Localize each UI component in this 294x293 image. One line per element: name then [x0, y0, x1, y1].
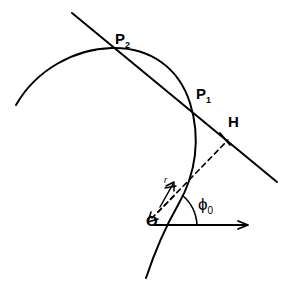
radius-label-r: r: [164, 176, 167, 185]
diagram-vector-layer: [0, 0, 294, 293]
angle-arc-phi-zero: [182, 195, 197, 225]
perpendicular-tick-at-h: [220, 133, 230, 145]
point-label-o: O: [146, 213, 158, 228]
secant-line: [72, 13, 277, 182]
point-label-h: H: [228, 114, 239, 129]
angle-label-phi-zero: ϕ0: [198, 196, 213, 213]
point-label-p2-base: P: [115, 30, 125, 47]
point-label-p1-base: P: [196, 85, 206, 102]
point-label-p2: P2: [115, 31, 130, 46]
dashed-radius-line: [158, 140, 228, 212]
angle-label-phi-subscript: 0: [208, 205, 214, 216]
point-label-p1: P1: [196, 86, 211, 101]
conic-arc-curve: [16, 48, 196, 278]
diagram-canvas: P2 P1 H O ϕ0 r: [0, 0, 294, 293]
point-label-p1-subscript: 1: [206, 95, 211, 105]
point-label-p2-subscript: 2: [125, 40, 130, 50]
angle-label-phi-base: ϕ: [198, 195, 208, 214]
